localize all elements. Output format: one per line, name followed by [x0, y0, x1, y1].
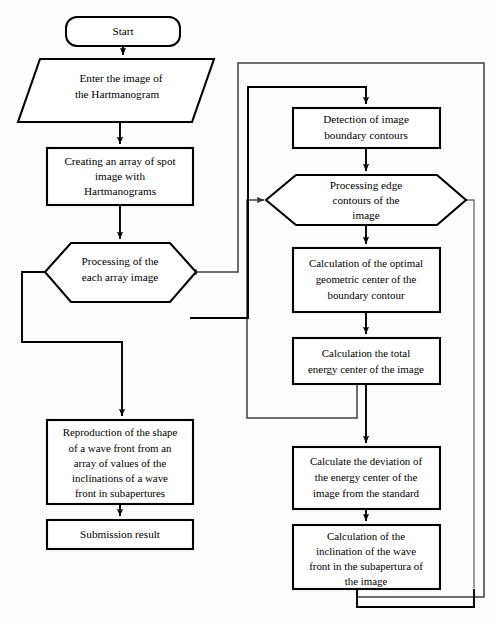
node-reproduction-line2: of a wave front from an — [68, 442, 172, 454]
node-detection: Detection of image boundary contours — [293, 108, 440, 148]
node-geometric-center-line3: boundary contour — [327, 289, 404, 301]
node-start-label: Start — [112, 25, 134, 37]
node-deviation-line3: image from the standard — [313, 487, 420, 499]
node-detection-line2: boundary contours — [324, 129, 408, 141]
node-deviation-line2: the energy center of the — [315, 471, 418, 483]
node-processing-edge: Processing edge contours of the image — [266, 175, 466, 225]
node-reproduction-line5: front in subapertures — [75, 487, 165, 499]
node-inclination-line1: Calculation of the — [327, 530, 405, 542]
node-inclination-line2: inclination of the wave — [316, 545, 416, 557]
node-enter-image: Enter the image of the Hartmanogram — [18, 59, 214, 122]
node-energy-center: Calculation the total energy center of t… — [293, 338, 440, 384]
node-processing-edge-line2: contours of the — [332, 194, 399, 206]
node-processing-each: Processing of the each array image — [45, 243, 196, 302]
node-reproduction-line3: array of values of the — [74, 457, 167, 469]
node-reproduction-line4: inclinations of a wave — [72, 472, 168, 484]
node-reproduction-line1: Reproduction of the shape — [63, 426, 178, 438]
node-start: Start — [66, 17, 180, 46]
node-processing-edge-line1: Processing edge — [330, 179, 402, 191]
node-creating-array-line3: Hartmanograms — [84, 185, 156, 197]
flowchart-diagram: Start Enter the image of the Hartmanogra… — [0, 0, 496, 624]
node-inclination: Calculation of the inclination of the wa… — [293, 525, 440, 589]
node-processing-each-line1: Processing of the — [81, 255, 158, 267]
edge-processing-edge-right-branch — [466, 200, 474, 588]
node-geometric-center-line1: Calculation of the optimal — [309, 257, 423, 269]
node-processing-each-line2: each array image — [82, 271, 158, 283]
node-creating-array-line1: Creating an array of spot — [64, 155, 176, 167]
node-deviation-line1: Calculate the deviation of — [310, 455, 423, 467]
node-processing-edge-line3: image — [352, 209, 379, 221]
node-energy-center-line1: Calculation the total — [322, 347, 410, 359]
node-geometric-center: Calculation of the optimal geometric cen… — [293, 248, 440, 312]
node-submission: Submission result — [47, 520, 193, 549]
node-inclination-line3: front in the subapertura of — [309, 560, 423, 572]
node-enter-image-line1: Enter the image of — [80, 72, 163, 84]
node-reproduction: Reproduction of the shape of a wave fron… — [47, 420, 193, 504]
node-energy-center-line2: energy center of the image — [308, 363, 424, 375]
edge-inclination-bottom-stub — [357, 589, 474, 607]
node-creating-array-line2: image with — [95, 170, 145, 182]
node-creating-array: Creating an array of spot image with Har… — [47, 148, 193, 205]
flowchart-canvas: Start Enter the image of the Hartmanogra… — [0, 0, 496, 624]
node-geometric-center-line2: geometric center of the — [316, 273, 417, 285]
node-deviation: Calculate the deviation of the energy ce… — [293, 447, 440, 509]
node-inclination-line4: the image — [345, 575, 388, 587]
node-submission-label: Submission result — [80, 528, 161, 540]
node-detection-line1: Detection of image — [323, 113, 409, 125]
node-enter-image-line2: the Hartmanogram — [75, 88, 159, 100]
